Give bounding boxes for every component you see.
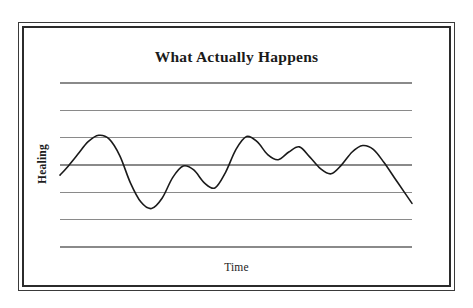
y-axis-label: Healing	[36, 144, 48, 184]
x-axis-label: Time	[0, 261, 473, 273]
plot-area: What Actually Happens	[24, 28, 449, 285]
figure-root: What Actually Happens Healing Time	[0, 0, 473, 308]
page-title: What Actually Happens	[24, 48, 449, 66]
